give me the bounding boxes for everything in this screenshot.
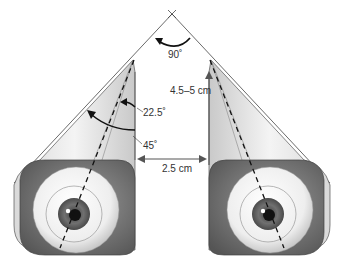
right-eye [227,167,313,253]
left-eye [33,167,119,253]
axis-angle-small-label: 22.5˚ [143,108,166,118]
orbit-diagram-graphic [0,0,344,271]
interorbital-distance-label: 2.5 cm [162,164,192,174]
orbit-depth-label: 4.5–5 cm [170,86,211,96]
axis-angle-large-label: 45˚ [143,141,157,151]
apex-angle-label: 90˚ [168,50,182,60]
apex-angle-arrow [155,38,190,46]
orbit-diagram: 90˚ 4.5–5 cm 22.5˚ 45˚ 2.5 cm [0,0,344,271]
interorbital-distance-arrow [137,155,207,163]
